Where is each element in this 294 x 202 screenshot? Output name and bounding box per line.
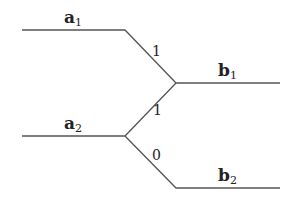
weight-a2-b2: 0: [152, 148, 161, 162]
output-label-b1: b1: [218, 62, 237, 81]
weight-a2-b1: 1: [153, 103, 162, 117]
weight-a1-b1: 1: [152, 44, 161, 58]
input-label-a1: a1: [64, 9, 82, 28]
edge-a2-b2: [125, 136, 280, 188]
network-diagram: a1 a2 b1 b2 1 1 0: [0, 0, 294, 202]
output-label-b2: b2: [218, 167, 237, 186]
diagram-lines: [0, 0, 294, 202]
input-label-a2: a2: [64, 115, 82, 134]
